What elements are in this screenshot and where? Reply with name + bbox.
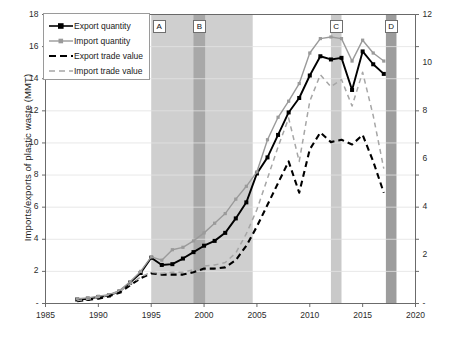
series-marker-export-quantity bbox=[223, 231, 227, 235]
legend-label-import-trade-value: Import trade value bbox=[74, 65, 143, 77]
y-tick-label-left: 14 bbox=[13, 73, 39, 83]
y-tick-label-right: 12 bbox=[423, 9, 449, 19]
series-marker-import-quantity bbox=[329, 35, 332, 38]
series-marker-import-quantity bbox=[160, 259, 163, 262]
series-marker-export-quantity bbox=[350, 88, 354, 92]
legend-item-import-trade-value: Import trade value bbox=[48, 63, 146, 78]
y-tick-label-left: 10 bbox=[13, 137, 39, 147]
series-marker-import-quantity bbox=[361, 39, 364, 42]
y-tick-label-right: 2 bbox=[423, 249, 449, 259]
series-marker-export-quantity bbox=[160, 263, 164, 267]
series-marker-export-quantity bbox=[308, 74, 312, 78]
y-tick-label-right: 6 bbox=[423, 153, 449, 163]
series-marker-export-quantity bbox=[192, 250, 196, 254]
series-marker-export-quantity bbox=[213, 239, 217, 243]
series-marker-import-quantity bbox=[308, 51, 311, 54]
series-marker-import-quantity bbox=[350, 59, 353, 62]
series-marker-import-quantity bbox=[382, 59, 385, 62]
series-marker-import-quantity bbox=[224, 212, 227, 215]
legend-swatch-import-quantity bbox=[48, 35, 74, 47]
series-marker-import-quantity bbox=[255, 170, 258, 173]
series-marker-export-quantity bbox=[266, 155, 270, 159]
x-tick-label: 1985 bbox=[26, 310, 66, 320]
series-marker-import-quantity bbox=[213, 222, 216, 225]
series-marker-import-quantity bbox=[139, 270, 142, 273]
legend-item-import-quantity: Import quantity bbox=[48, 33, 146, 48]
series-marker-export-quantity bbox=[382, 72, 386, 76]
legend-item-export-quantity: Export quantity bbox=[48, 18, 146, 33]
shaded-band-d bbox=[386, 15, 397, 304]
series-marker-export-quantity bbox=[202, 244, 206, 248]
series-marker-import-quantity bbox=[266, 138, 269, 141]
series-marker-import-quantity bbox=[171, 248, 174, 251]
series-marker-import-quantity bbox=[150, 255, 153, 258]
series-marker-export-quantity bbox=[371, 62, 375, 66]
legend-swatch-export-quantity bbox=[48, 20, 74, 32]
series-marker-import-quantity bbox=[372, 51, 375, 54]
series-marker-import-quantity bbox=[287, 100, 290, 103]
shaded-band-b bbox=[194, 15, 206, 304]
series-marker-export-quantity bbox=[318, 54, 322, 58]
x-tick-label: 2000 bbox=[184, 310, 224, 320]
x-tick-label: 1990 bbox=[78, 310, 118, 320]
series-marker-export-quantity bbox=[361, 49, 365, 53]
series-marker-export-quantity bbox=[340, 56, 344, 60]
y-tick-label-right: 8 bbox=[423, 105, 449, 115]
series-marker-export-quantity bbox=[181, 257, 185, 261]
series-marker-export-quantity bbox=[244, 200, 248, 204]
legend-swatch-import-trade-value bbox=[48, 65, 74, 77]
y-tick-label-left: 18 bbox=[13, 9, 39, 19]
band-tag-d: D bbox=[385, 20, 398, 33]
legend-label-import-quantity: Import quantity bbox=[74, 35, 130, 47]
y-tick-label-left: 16 bbox=[13, 41, 39, 51]
band-tag-c: C bbox=[330, 20, 343, 33]
series-marker-import-quantity bbox=[319, 37, 322, 40]
y-tick-label-left: 2 bbox=[13, 265, 39, 275]
chart-figure: Imports/exports of plastic waste (MMT) B… bbox=[0, 0, 449, 338]
series-marker-export-quantity bbox=[297, 96, 301, 100]
series-marker-import-quantity bbox=[245, 185, 248, 188]
x-tick-label: 2015 bbox=[343, 310, 383, 320]
legend-label-export-trade-value: Export trade value bbox=[74, 50, 143, 62]
legend-swatch-export-trade-value bbox=[48, 50, 74, 62]
series-marker-import-quantity bbox=[192, 239, 195, 242]
y-tick-label-right: 4 bbox=[423, 201, 449, 211]
series-marker-export-quantity bbox=[170, 262, 174, 266]
series-marker-import-quantity bbox=[276, 116, 279, 119]
series-marker-export-quantity bbox=[329, 57, 333, 61]
x-tick-label: 2020 bbox=[396, 310, 436, 320]
y-tick-label-left: 12 bbox=[13, 105, 39, 115]
series-marker-import-quantity bbox=[202, 231, 205, 234]
x-tick-label: 2005 bbox=[237, 310, 277, 320]
legend-label-export-quantity: Export quantity bbox=[74, 20, 131, 32]
x-tick-label: 1995 bbox=[131, 310, 171, 320]
chart-legend: Export quantity Import quantity Export t… bbox=[43, 13, 150, 80]
series-marker-import-quantity bbox=[340, 37, 343, 40]
y-tick-label-left: 8 bbox=[13, 169, 39, 179]
series-marker-import-quantity bbox=[298, 82, 301, 85]
y-tick-label-right: - bbox=[423, 298, 449, 308]
series-marker-export-quantity bbox=[287, 110, 291, 114]
series-marker-export-quantity bbox=[234, 216, 238, 220]
y-tick-label-left: 6 bbox=[13, 201, 39, 211]
y-tick-label-left: - bbox=[13, 298, 39, 308]
series-marker-export-quantity bbox=[276, 133, 280, 137]
series-marker-import-quantity bbox=[234, 198, 237, 201]
legend-item-export-trade-value: Export trade value bbox=[48, 48, 146, 63]
band-tag-a: A bbox=[153, 20, 166, 33]
band-tag-b: B bbox=[193, 20, 206, 33]
y-tick-label-left: 4 bbox=[13, 233, 39, 243]
x-tick-label: 2010 bbox=[290, 310, 330, 320]
series-marker-import-quantity bbox=[181, 246, 184, 249]
y-tick-label-right: 10 bbox=[423, 57, 449, 67]
